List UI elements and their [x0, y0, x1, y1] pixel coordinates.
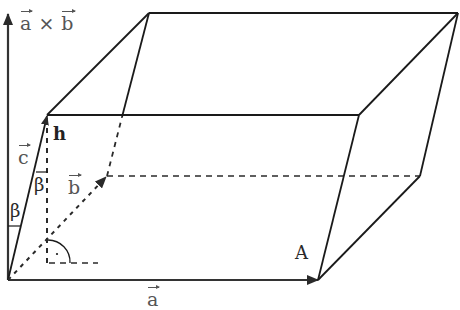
edge-bc-b	[122, 13, 149, 117]
height-label: h	[53, 125, 66, 143]
cross-b-symbol: b	[61, 14, 73, 33]
edge-ac-abc	[359, 13, 458, 115]
right-angle-dot	[56, 253, 58, 255]
vec-c-symbol: c	[18, 148, 29, 167]
edge-a-ac	[318, 115, 359, 280]
times-symbol: ×	[38, 12, 54, 34]
vec-a-symbol: a	[147, 290, 158, 309]
vector-c	[8, 116, 47, 280]
edge-a-ab	[318, 176, 420, 280]
cross-a-symbol: a	[20, 14, 31, 33]
diagram-drawing	[0, 0, 460, 310]
vector-c-label: c	[18, 148, 29, 167]
point-a-label: A	[295, 244, 308, 262]
vec-b-symbol: b	[68, 178, 80, 197]
cross-product-label: a × b	[20, 14, 74, 33]
edge-ab-abc	[420, 13, 458, 176]
beta-outer-label: β	[10, 202, 20, 220]
vector-b	[8, 177, 106, 280]
hidden-edge-b-to-bc	[107, 117, 122, 176]
parallelepiped-diagram: a × b c h b β β A a	[0, 0, 460, 310]
vector-a-label: a	[147, 290, 158, 309]
vector-b-label: b	[68, 178, 80, 197]
right-angle-arc	[48, 240, 70, 263]
beta-inner-label: β	[34, 176, 44, 194]
